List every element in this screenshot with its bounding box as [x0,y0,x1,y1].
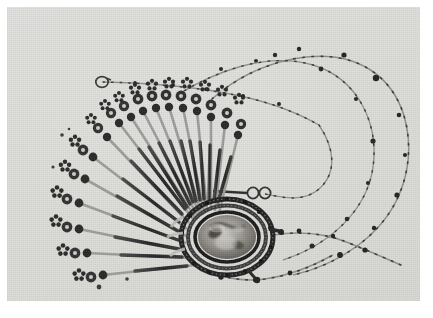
pendant [180,197,284,283]
photograph [7,7,420,301]
necklace-illustration [7,7,420,301]
screenshot-root: Beaded necklace with oval pendant and fr… [0,0,433,318]
chain-strand-to-pendant [265,125,332,198]
clasp-rings-center [247,187,270,198]
loose-beads [51,128,128,290]
fringe-strand [78,145,187,229]
fringe-strand [86,265,195,282]
